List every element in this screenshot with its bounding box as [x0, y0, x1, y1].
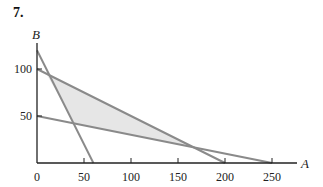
x-tick-label: 50 [78, 170, 90, 184]
x-tick-label: 100 [122, 170, 140, 184]
y-tick-label: 100 [14, 62, 32, 76]
y-axis-label: B [32, 27, 40, 42]
line-2 [37, 116, 272, 163]
y-tick-label: 50 [20, 109, 32, 123]
x-tick-label: 150 [169, 170, 187, 184]
chart: 05010015020025050100 A B [0, 0, 323, 187]
x-tick-label: 250 [263, 170, 281, 184]
x-tick-label: 200 [216, 170, 234, 184]
x-tick-label: 0 [34, 170, 40, 184]
x-axis-label: A [300, 156, 309, 171]
